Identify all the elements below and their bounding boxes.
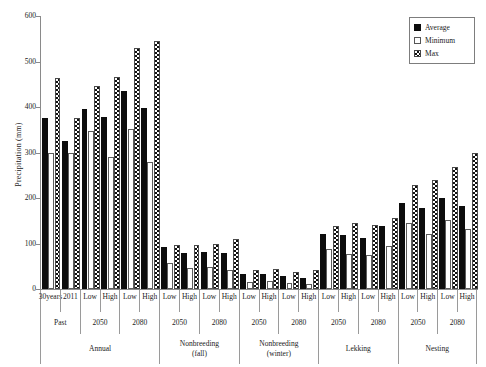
- bar-max: [194, 245, 200, 289]
- bar-max: [94, 86, 100, 289]
- bar-cluster: [61, 16, 81, 289]
- bar-minimum: [445, 220, 451, 289]
- bar-cluster: [180, 16, 200, 289]
- y-tick-mark-100: [36, 244, 41, 245]
- bar-max: [352, 223, 358, 289]
- x-category-label: 30years: [40, 290, 60, 312]
- x-category-label: High: [457, 290, 477, 312]
- bar-minimum: [187, 268, 193, 289]
- bar-cluster: [41, 16, 61, 289]
- bar-max: [174, 245, 180, 289]
- bar-minimum: [267, 281, 273, 289]
- legend-row-max: Max: [414, 47, 470, 60]
- bar-cluster: [160, 16, 180, 289]
- bar-minimum: [167, 263, 173, 289]
- bar-minimum: [386, 246, 392, 289]
- bar-max: [472, 153, 478, 289]
- bar-cluster: [339, 16, 359, 289]
- bar-average: [42, 118, 48, 289]
- bar-average: [300, 278, 306, 289]
- bar-max: [372, 225, 378, 289]
- bar-average: [439, 198, 445, 289]
- x-category-label: High: [219, 290, 239, 312]
- x-year-label: 2050: [398, 312, 438, 334]
- y-tick-mark-400: [36, 107, 41, 108]
- y-axis-tick-labels: 0100200300400500600: [0, 0, 36, 367]
- bar-max: [452, 167, 458, 289]
- bar-average: [459, 206, 465, 289]
- legend-label-minimum: Minimum: [425, 36, 455, 45]
- y-tick-mark-600: [36, 16, 41, 17]
- bar-average: [121, 91, 127, 289]
- bar-cluster: [101, 16, 121, 289]
- bar-average: [419, 208, 425, 289]
- x-year-label: 2080: [437, 312, 477, 334]
- y-tick-mark-300: [36, 153, 41, 154]
- bar-minimum: [326, 249, 332, 289]
- y-tick-500: 500: [2, 58, 36, 66]
- bar-max: [213, 244, 219, 290]
- y-tick-400: 400: [2, 103, 36, 111]
- bar-cluster: [200, 16, 220, 289]
- bar-max: [114, 77, 120, 289]
- bar-cluster: [319, 16, 339, 289]
- bar-minimum: [406, 223, 412, 289]
- precipitation-bar-chart: Precipitation (mm) 0100200300400500600 3…: [0, 0, 486, 367]
- x-year-label: 2050: [159, 312, 199, 334]
- x-category-label: Low: [437, 290, 457, 312]
- bar-max: [55, 78, 61, 289]
- bar-cluster: [359, 16, 379, 289]
- x-tier-seasons: AnnualNonbreeding(fall)Nonbreeding(winte…: [40, 334, 478, 364]
- legend-swatch-average-icon: [414, 24, 421, 31]
- bar-max: [74, 118, 80, 289]
- bar-max: [432, 180, 438, 289]
- x-category-label: Low: [80, 290, 100, 312]
- bar-minimum: [426, 234, 432, 290]
- bar-minimum: [147, 162, 153, 289]
- bar-minimum: [247, 282, 253, 289]
- x-category-label: 2011: [60, 290, 80, 312]
- y-tick-0: 0: [2, 285, 36, 293]
- x-category-label: Low: [358, 290, 378, 312]
- bar-max: [412, 185, 418, 289]
- bar-average: [221, 253, 227, 289]
- x-year-label: 2080: [358, 312, 398, 334]
- bar-max: [134, 48, 140, 289]
- x-year-label: Past: [40, 312, 80, 334]
- x-category-label: Low: [239, 290, 259, 312]
- bar-minimum: [346, 254, 352, 289]
- x-tier-categories: 30years2011LowHighLowHighLowHighLowHighL…: [40, 290, 478, 312]
- bar-average: [141, 108, 147, 289]
- bar-minimum: [68, 153, 74, 289]
- x-year-label: 2050: [80, 312, 120, 334]
- bar-average: [82, 109, 88, 289]
- bar-average: [320, 234, 326, 290]
- x-year-label: 2050: [318, 312, 358, 334]
- bar-cluster: [240, 16, 260, 289]
- bar-average: [101, 117, 107, 289]
- x-category-label: Low: [159, 290, 179, 312]
- bar-average: [360, 238, 366, 289]
- bar-max: [392, 218, 398, 289]
- bar-average: [161, 247, 167, 289]
- bar-max: [313, 270, 319, 289]
- x-category-label: High: [139, 290, 159, 312]
- x-category-label: High: [417, 290, 437, 312]
- x-season-label: Annual: [40, 334, 159, 364]
- legend-row-minimum: Minimum: [414, 34, 470, 47]
- y-tick-mark-200: [36, 198, 41, 199]
- bar-average: [399, 203, 405, 289]
- x-category-label: Low: [278, 290, 298, 312]
- bar-minimum: [227, 270, 233, 289]
- y-tick-200: 200: [2, 194, 36, 202]
- bar-minimum: [128, 129, 134, 289]
- bar-cluster: [120, 16, 140, 289]
- x-season-label: Nonbreeding(winter): [239, 334, 318, 364]
- x-category-label: Low: [398, 290, 418, 312]
- bar-minimum: [108, 157, 114, 289]
- bar-minimum: [207, 267, 213, 289]
- y-tick-mark-500: [36, 62, 41, 63]
- legend-label-max: Max: [425, 49, 439, 58]
- x-category-label: High: [298, 290, 318, 312]
- x-category-label: High: [378, 290, 398, 312]
